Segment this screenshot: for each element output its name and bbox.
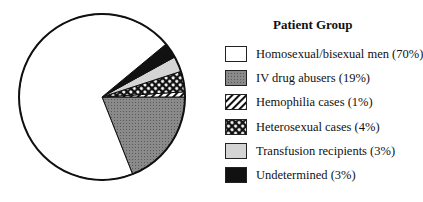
legend-item: Homosexual/bisexual men (70%): [225, 44, 423, 64]
legend-item: Hemophilia cases (1%): [225, 92, 373, 112]
legend-label: Homosexual/bisexual men (70%): [256, 47, 423, 62]
legend-label: Undetermined (3%): [256, 168, 356, 183]
legend-label: IV drug abusers (19%): [256, 71, 370, 86]
legend-item: Transfusion recipients (3%): [225, 141, 395, 161]
legend-swatch-icon: [225, 167, 247, 183]
legend-label: Transfusion recipients (3%): [256, 144, 395, 159]
legend-swatch-icon: [225, 94, 247, 110]
legend-label: Heterosexual cases (4%): [256, 120, 380, 135]
legend-item: Heterosexual cases (4%): [225, 117, 380, 137]
legend-item: IV drug abusers (19%): [225, 68, 370, 88]
legend-swatch-icon: [225, 46, 247, 62]
legend-title: Patient Group: [273, 17, 353, 33]
pie-chart: [0, 0, 210, 202]
legend-swatch-icon: [225, 143, 247, 159]
legend-swatch-icon: [225, 119, 247, 135]
legend-label: Hemophilia cases (1%): [256, 95, 373, 110]
legend-swatch-icon: [225, 70, 247, 86]
legend-item: Undetermined (3%): [225, 165, 356, 185]
